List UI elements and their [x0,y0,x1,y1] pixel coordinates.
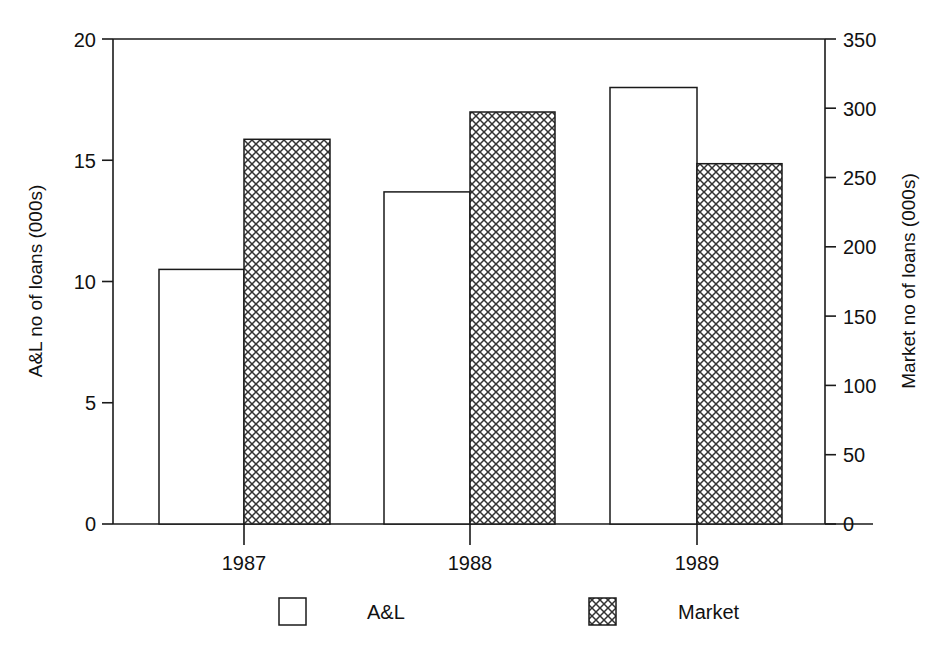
bar-chart-figure: 0 5 10 15 20 A&L no of loans (000s) 0 50… [0,0,939,646]
bar-al-1987 [159,269,244,524]
right-tick-label-100: 100 [843,375,876,397]
left-tick-label-20: 20 [74,29,96,51]
plain-square-icon [279,598,306,625]
bar-market-1988 [470,112,555,524]
left-axis-ticks: 0 5 10 15 20 [74,29,113,535]
left-axis-title: A&L no of loans (000s) [25,185,46,378]
legend-item-market[interactable]: Market [589,598,740,625]
legend-label-al: A&L [367,601,405,623]
right-tick-label-250: 250 [843,167,876,189]
bar-al-1988 [384,192,470,524]
legend-label-market: Market [678,601,740,623]
bar-al-1989 [610,88,697,525]
chart-container: 0 5 10 15 20 A&L no of loans (000s) 0 50… [0,0,939,646]
legend-item-al[interactable]: A&L [279,598,405,625]
right-tick-label-200: 200 [843,236,876,258]
category-label-1988: 1988 [448,552,493,574]
right-tick-label-300: 300 [843,98,876,120]
right-axis-title: Market no of loans (000s) [898,173,919,388]
crosshatch-square-icon [589,598,616,625]
bar-market-1989 [697,164,782,524]
right-tick-label-0: 0 [843,513,854,535]
left-tick-label-0: 0 [85,513,96,535]
left-tick-label-10: 10 [74,271,96,293]
right-tick-label-150: 150 [843,306,876,328]
category-label-1989: 1989 [675,552,720,574]
left-tick-label-15: 15 [74,150,96,172]
chart-legend: A&L Market [279,598,740,625]
category-axis: 1987 1988 1989 [222,524,720,574]
category-label-1987: 1987 [222,552,267,574]
bar-market-1987 [244,139,330,524]
left-tick-label-5: 5 [85,392,96,414]
right-tick-label-350: 350 [843,29,876,51]
right-axis-ticks: 0 50 100 150 200 250 300 350 [825,29,876,535]
right-tick-label-50: 50 [843,444,865,466]
